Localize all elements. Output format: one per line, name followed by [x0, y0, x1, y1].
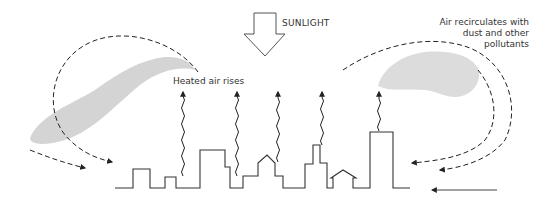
heat-arrow-3: [277, 92, 280, 162]
recirculation-label-line-1: Air recirculates with: [419, 17, 529, 28]
heated-air-label: Heated air rises: [173, 76, 244, 87]
heat-arrow-2: [236, 92, 239, 176]
left-wind-arrow: [30, 150, 85, 168]
sunlight-label: SUNLIGHT: [282, 18, 330, 29]
heat-arrow-4: [321, 92, 324, 145]
recirculation-label-line-3: pollutants: [419, 39, 529, 50]
left-pollution-cloud: [30, 57, 195, 144]
recirculation-label: Air recirculates with dust and other pol…: [419, 17, 529, 50]
heat-arrows: [182, 92, 381, 176]
left-recirculation-arrow: [53, 36, 198, 162]
recirculation-label-line-2: dust and other: [419, 28, 529, 39]
heat-arrow-5: [378, 92, 381, 131]
sunlight-arrow-icon: [244, 13, 285, 56]
heat-arrow-1: [182, 92, 185, 176]
city-skyline: [115, 132, 410, 188]
right-pollution-cloud: [378, 52, 479, 98]
